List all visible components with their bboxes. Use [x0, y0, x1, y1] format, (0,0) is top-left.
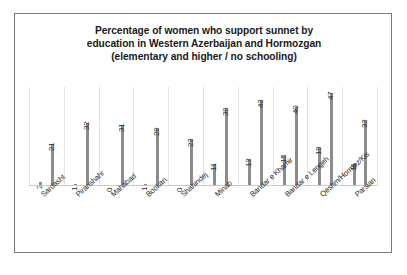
bar-value-label: 21 — [47, 143, 56, 152]
bar-value-label: 31 — [117, 123, 126, 132]
bar-value-label: 11 — [209, 163, 218, 171]
bar-value-label: 23 — [186, 139, 195, 148]
bar-value-label: 39 — [221, 107, 230, 116]
bar — [260, 101, 263, 186]
chart-frame: Percentage of women who support sunnet b… — [14, 13, 392, 253]
bar-value-label: 29 — [152, 127, 161, 136]
chart-title-line-3: (elementary and higher / no schooling) — [33, 50, 375, 63]
chart-title-line-1: Percentage of women who support sunnet b… — [33, 24, 375, 37]
bar-value-label: 43 — [256, 99, 265, 108]
bar — [295, 107, 298, 186]
bar-value-label: 19 — [314, 147, 323, 156]
bar — [121, 125, 124, 186]
bar — [86, 123, 89, 186]
bar — [225, 109, 228, 186]
gridline — [377, 87, 378, 186]
bar-value-label: 40 — [291, 105, 300, 114]
bar-value-label: 33 — [360, 119, 369, 128]
category-axis-labels: SardashtPiranshahrMahabadBookanShahindej… — [29, 186, 377, 266]
bar-value-label: 13 — [244, 159, 253, 168]
bar — [330, 93, 333, 186]
bar-value-label: 47 — [326, 91, 335, 100]
chart-title: Percentage of women who support sunnet b… — [33, 24, 375, 64]
bar — [156, 129, 159, 186]
screenshot-root: Percentage of women who support sunnet b… — [0, 0, 407, 275]
bar-value-label: 32 — [82, 121, 91, 130]
chart-title-line-2: education in Western Azerbaijan and Horm… — [33, 37, 375, 50]
